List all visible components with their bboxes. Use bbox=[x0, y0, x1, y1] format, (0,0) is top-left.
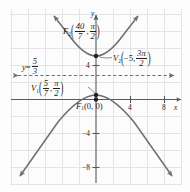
vertex-v2-dot bbox=[94, 54, 98, 58]
label-f2-angle-num: π bbox=[90, 22, 96, 31]
label-f2-denominator: 7 bbox=[75, 31, 86, 41]
label-v2-angle-num: 3π bbox=[136, 49, 147, 58]
label-f2-comma: , bbox=[86, 26, 88, 36]
label-v1-denominator: 7 bbox=[43, 88, 49, 98]
label-v1-numerator: 5 bbox=[43, 79, 49, 88]
label-v1-angle-num: π bbox=[53, 79, 59, 88]
label-v2-comma: , bbox=[133, 53, 135, 63]
label-v1-comma: , bbox=[50, 83, 52, 93]
x-tick-4: 4 bbox=[128, 103, 132, 112]
label-f2-angle-den: 2 bbox=[90, 31, 96, 41]
asymptote-numerator: 5 bbox=[32, 57, 38, 66]
x-tick-8: 8 bbox=[162, 103, 166, 112]
label-f2-numerator: 40 bbox=[75, 22, 86, 31]
label-v2-angle-den: 2 bbox=[136, 58, 147, 68]
asymptote-denominator: 3 bbox=[32, 66, 38, 76]
label-v2-first: −5 bbox=[124, 53, 133, 63]
y-tick-neg4: −4 bbox=[82, 129, 90, 138]
label-v1-angle-den: 2 bbox=[53, 88, 59, 98]
label-f1: F1(0, 0) bbox=[76, 102, 103, 112]
x-axis-label: x bbox=[174, 103, 177, 112]
label-f2: F2(407,π2) bbox=[63, 22, 100, 41]
y-tick-neg8: −8 bbox=[82, 163, 90, 172]
y-tick-4: 4 bbox=[86, 61, 90, 70]
label-v2: V2(−5,3π2) bbox=[113, 49, 151, 68]
asymptote-equals: = bbox=[26, 62, 31, 72]
label-v1: V1(57,π2) bbox=[31, 79, 63, 98]
y-axis-label: y bbox=[91, 9, 94, 18]
label-f1-coords: (0, 0) bbox=[84, 101, 103, 111]
polar-conic-figure: F2(407,π2) V2(−5,3π2) V1(57,π2) F1(0, 0)… bbox=[0, 0, 190, 192]
label-asymptote: y=53 bbox=[22, 57, 39, 76]
